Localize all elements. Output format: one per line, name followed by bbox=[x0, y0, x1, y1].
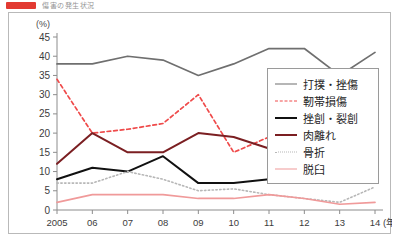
legend-swatch-icon bbox=[275, 96, 297, 106]
legend-label: 靭帯損傷 bbox=[303, 93, 347, 109]
y-tick-label: 20 bbox=[39, 128, 51, 139]
legend-item-0[interactable]: 打撲・挫傷 bbox=[275, 75, 371, 92]
header-badge-icon bbox=[6, 2, 36, 9]
header-strip: 傷害の発生状況 bbox=[0, 0, 399, 9]
legend-item-5[interactable]: 脱臼 bbox=[275, 160, 371, 177]
legend-item-4[interactable]: 骨折 bbox=[275, 143, 371, 160]
x-tick-label: 07 bbox=[122, 217, 133, 228]
legend-label: 打撲・挫傷 bbox=[303, 76, 358, 92]
legend-swatch-icon bbox=[275, 147, 297, 157]
x-tick-label: 12 bbox=[299, 217, 310, 228]
legend-label: 骨折 bbox=[303, 144, 325, 160]
y-tick-label: 35 bbox=[39, 70, 51, 81]
legend-item-3[interactable]: 肉離れ bbox=[275, 126, 371, 143]
series-line-5 bbox=[57, 195, 375, 205]
chart-panel: (%) 051015202530354045200506070809101112… bbox=[8, 12, 391, 234]
x-tick-label: 14 bbox=[370, 217, 381, 228]
chart-legend: 打撲・挫傷靭帯損傷挫創・裂創肉離れ骨折脱臼 bbox=[267, 68, 379, 184]
y-tick-label: 0 bbox=[44, 205, 50, 216]
x-tick-label: 09 bbox=[193, 217, 204, 228]
legend-swatch-icon bbox=[275, 130, 297, 140]
x-tick-label: 13 bbox=[334, 217, 345, 228]
x-axis-unit-label: (年) bbox=[383, 217, 392, 228]
legend-label: 挫創・裂創 bbox=[303, 110, 358, 126]
legend-item-2[interactable]: 挫創・裂創 bbox=[275, 109, 371, 126]
x-tick-label: 08 bbox=[158, 217, 169, 228]
x-tick-label: 10 bbox=[228, 217, 239, 228]
legend-swatch-icon bbox=[275, 113, 297, 123]
legend-swatch-icon bbox=[275, 164, 297, 174]
y-tick-label: 5 bbox=[44, 185, 50, 196]
x-tick-label: 2005 bbox=[46, 217, 67, 228]
legend-swatch-icon bbox=[275, 79, 297, 89]
legend-item-1[interactable]: 靭帯損傷 bbox=[275, 92, 371, 109]
y-tick-label: 40 bbox=[39, 51, 51, 62]
y-tick-label: 45 bbox=[39, 32, 51, 43]
x-tick-label: 06 bbox=[87, 217, 98, 228]
y-tick-label: 15 bbox=[39, 147, 51, 158]
legend-label: 脱臼 bbox=[303, 161, 325, 177]
x-tick-label: 11 bbox=[264, 217, 274, 228]
header-title: 傷害の発生状況 bbox=[42, 2, 95, 9]
legend-label: 肉離れ bbox=[303, 127, 336, 143]
y-tick-label: 30 bbox=[39, 89, 51, 100]
y-tick-label: 10 bbox=[39, 166, 51, 177]
y-tick-label: 25 bbox=[39, 108, 51, 119]
